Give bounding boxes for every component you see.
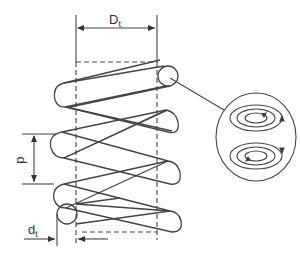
eddy-current-loop-bottom	[230, 143, 284, 169]
detail-leader-line	[170, 78, 224, 110]
top-wire-section	[158, 66, 178, 86]
pitch-label: p	[12, 156, 27, 163]
wire-diameter-label: dt	[28, 222, 38, 239]
reference-lines	[76, 15, 157, 246]
detail-view	[216, 93, 296, 181]
detail-circle	[216, 93, 296, 181]
spring-coils	[50, 60, 181, 232]
wire-diameter-dimension: dt	[24, 214, 108, 246]
eddy-current-loop-top	[230, 105, 284, 131]
outer-diameter-label: Dt	[109, 12, 121, 29]
spring-diagram: Dt p	[0, 0, 300, 258]
outer-diameter-dimension: Dt	[78, 12, 155, 29]
